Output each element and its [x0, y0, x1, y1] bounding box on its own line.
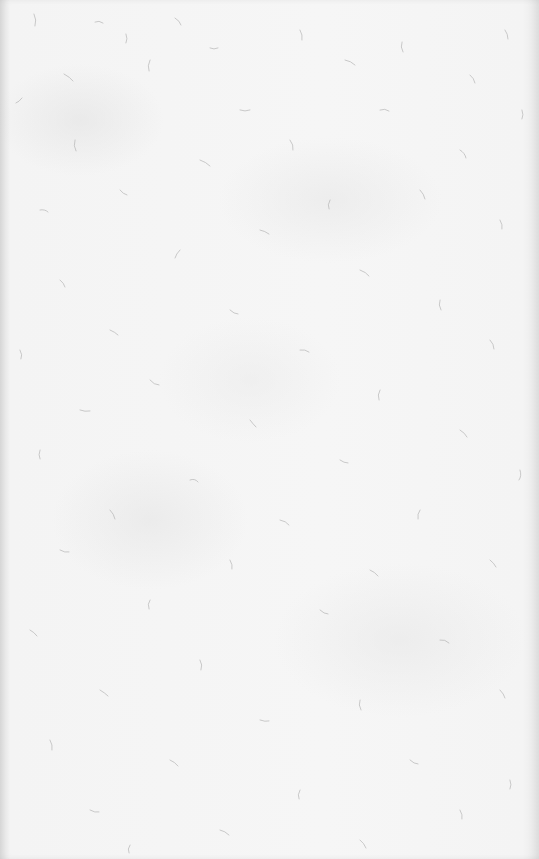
paper-fibers: [0, 0, 539, 859]
textured-paper-background: [0, 0, 539, 859]
